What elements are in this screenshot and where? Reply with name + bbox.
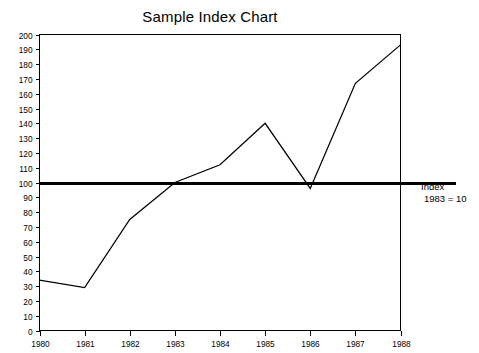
- y-tick-label: 30: [23, 282, 33, 292]
- y-tick-label: 20: [23, 297, 33, 307]
- y-tick-label: 60: [23, 238, 33, 248]
- y-tick-label: 190: [19, 45, 33, 55]
- y-tick-label: 70: [23, 223, 33, 233]
- y-tick-label: 0: [28, 327, 33, 337]
- x-axis-ticks: [41, 331, 402, 336]
- chart-plot-area: 0102030405060708090100110120130140150160…: [0, 0, 479, 353]
- y-tick-label: 40: [23, 267, 33, 277]
- y-tick-label: 140: [19, 119, 33, 129]
- y-axis-ticks: [36, 36, 40, 332]
- annotation-label-index: Index: [421, 181, 444, 192]
- y-tick-label: 120: [19, 149, 33, 159]
- y-tick-label: 80: [23, 208, 33, 218]
- y-tick-label: 200: [19, 31, 33, 41]
- x-tick-label: 1985: [256, 339, 275, 349]
- y-axis-tick-labels: 0102030405060708090100110120130140150160…: [19, 31, 33, 337]
- data-series-index-line: [40, 45, 401, 288]
- x-tick-label: 1984: [211, 339, 230, 349]
- x-tick-label: 1980: [31, 339, 50, 349]
- x-tick-label: 1983: [166, 339, 185, 349]
- y-tick-label: 90: [23, 193, 33, 203]
- x-axis-tick-labels: 198019811982198319841985198619871988: [31, 339, 411, 349]
- y-tick-label: 130: [19, 134, 33, 144]
- chart-container: Sample Index Chart 010203040506070809010…: [0, 0, 479, 353]
- y-tick-label: 110: [19, 164, 33, 174]
- y-tick-label: 150: [19, 105, 33, 115]
- x-tick-label: 1987: [346, 339, 365, 349]
- y-tick-label: 100: [19, 179, 33, 189]
- x-tick-label: 1988: [392, 339, 411, 349]
- y-tick-label: 170: [19, 75, 33, 85]
- y-tick-label: 10: [23, 312, 33, 322]
- y-tick-label: 180: [19, 60, 33, 70]
- x-tick-label: 1986: [301, 339, 320, 349]
- annotation-label-base-year: 1983 = 10: [424, 193, 467, 204]
- y-tick-label: 50: [23, 253, 33, 263]
- y-tick-label: 160: [19, 90, 33, 100]
- x-tick-label: 1981: [76, 339, 95, 349]
- x-tick-label: 1982: [121, 339, 140, 349]
